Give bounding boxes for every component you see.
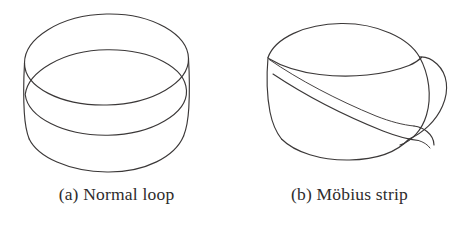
panel-normal-loop: (a) Normal loop <box>0 0 233 230</box>
mobius-icon <box>233 0 466 180</box>
caption-normal-loop: (a) Normal loop <box>0 183 233 205</box>
panel-mobius-strip: (b) Möbius strip <box>233 0 466 230</box>
loop-icon <box>0 0 233 180</box>
caption-mobius-strip: (b) Möbius strip <box>233 183 466 205</box>
figure-container: (a) Normal loop (b) Möb <box>0 0 466 230</box>
